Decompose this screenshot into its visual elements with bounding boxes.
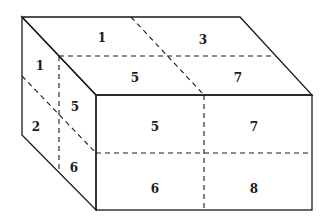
label-left-top-back: 1 xyxy=(36,59,44,73)
label-top-front-right: 7 xyxy=(234,71,242,85)
left-face-labels: 1 5 2 6 xyxy=(32,59,79,175)
label-top-back-right: 3 xyxy=(199,33,207,47)
label-left-bottom-front: 6 xyxy=(70,161,78,175)
label-left-top-front: 5 xyxy=(71,100,79,114)
label-front-bottom-right: 8 xyxy=(250,182,258,196)
label-left-bottom-back: 2 xyxy=(32,120,40,134)
label-front-top-left: 5 xyxy=(151,120,159,134)
cuboid-outline xyxy=(22,17,312,210)
label-front-top-right: 7 xyxy=(250,120,258,134)
label-front-bottom-left: 6 xyxy=(151,182,159,196)
cuboid-octant-diagram: 1 3 5 7 1 5 2 6 5 7 6 8 xyxy=(0,0,331,223)
label-top-front-left: 5 xyxy=(131,71,139,85)
partition-lines xyxy=(22,17,312,210)
label-top-back-left: 1 xyxy=(98,31,106,45)
